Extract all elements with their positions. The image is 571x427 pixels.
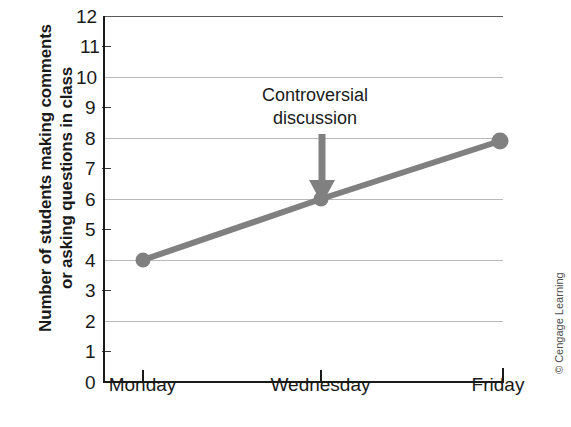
data-point-monday	[136, 253, 151, 268]
y-label-11: 11	[80, 37, 100, 56]
y-label-9: 9	[85, 98, 96, 117]
data-point-friday	[492, 133, 509, 150]
down-arrow-icon	[306, 134, 338, 206]
credit-line: © Cengage Learning	[553, 244, 571, 374]
annotation-line-2: discussion	[200, 107, 430, 130]
data-series-line	[103, 16, 503, 383]
x-label-friday: Friday	[448, 375, 548, 394]
x-label-wednesday: Wednesday	[258, 375, 383, 394]
annotation-line-1: Controversial	[200, 84, 430, 107]
y-axis-title-line-2: or asking questions in class	[56, 0, 77, 373]
y-label-10: 10	[76, 68, 97, 87]
y-label-12: 12	[76, 7, 97, 26]
plot-area	[103, 16, 503, 382]
y-label-5: 5	[85, 220, 96, 239]
y-axis-title-line-1: Number of students making comments	[35, 0, 56, 373]
annotation-controversial-discussion: Controversial discussion	[200, 84, 430, 130]
y-label-2: 2	[85, 312, 96, 331]
y-label-7: 7	[85, 159, 96, 178]
y-label-1: 1	[85, 342, 96, 361]
y-label-4: 4	[85, 251, 96, 270]
chart-figure: Number of students making comments or as…	[0, 0, 571, 427]
y-label-6: 6	[85, 190, 96, 209]
y-label-3: 3	[85, 281, 96, 300]
x-label-monday: Monday	[90, 375, 195, 394]
y-label-8: 8	[85, 129, 96, 148]
